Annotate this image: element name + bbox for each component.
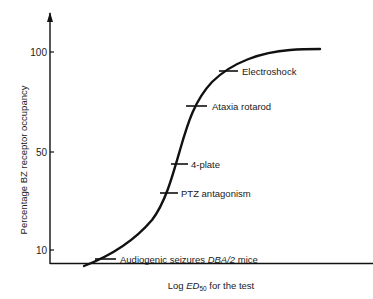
occupancy-curve bbox=[84, 49, 320, 266]
y-tick-50: 50 bbox=[36, 147, 48, 158]
annotation-ataxia-rotarod: Ataxia rotarod bbox=[212, 101, 271, 112]
y-axis-arrow-icon bbox=[47, 12, 53, 22]
annotation-ptz-antagonism: PTZ antagonism bbox=[181, 188, 251, 199]
x-axis-title: Log ED50 for the test bbox=[168, 280, 255, 292]
y-tick-10: 10 bbox=[36, 245, 48, 256]
annotation-electroshock: Electroshock bbox=[242, 66, 297, 77]
chart: 100 50 10 Percentage BZ receptor occupan… bbox=[0, 0, 373, 299]
y-axis-title: Percentage BZ receptor occupancy bbox=[18, 85, 29, 234]
annotation-4-plate: 4-plate bbox=[191, 159, 220, 170]
y-tick-100: 100 bbox=[30, 47, 47, 58]
annotation-audiogenic-seizures: Audiogenic seizures DBA/2 mice bbox=[120, 254, 258, 265]
